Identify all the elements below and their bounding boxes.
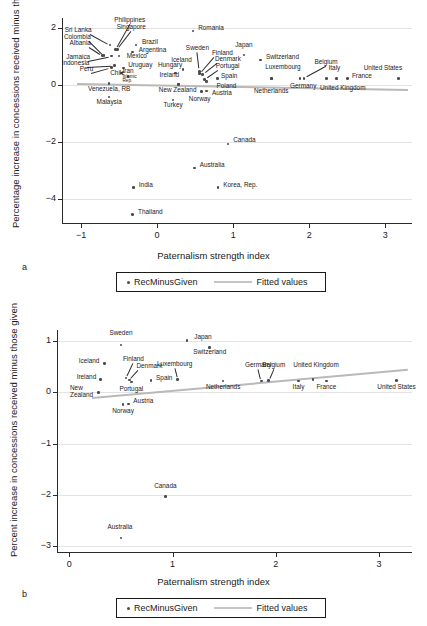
point-label: Portugal <box>119 386 143 393</box>
legend-key-series: RecMinusGiven <box>127 603 198 613</box>
x-tick-b <box>276 553 277 557</box>
point-label: Italy <box>293 384 305 391</box>
x-tick-b <box>69 553 70 557</box>
point-label: United States <box>377 384 415 391</box>
y-tick-label-b: −1 <box>33 438 51 448</box>
x-tick-a <box>81 224 82 228</box>
x-tick-label-b: 0 <box>59 559 79 569</box>
figure-root: 20−2−4−10123Sri LankaPhilippinesSingapor… <box>0 0 427 626</box>
data-point <box>120 344 123 347</box>
x-axis-a <box>62 223 412 224</box>
data-point <box>217 186 220 189</box>
gridline-y-b <box>57 392 412 393</box>
data-point <box>205 90 208 93</box>
point-label: Korea, Rep. <box>223 182 257 189</box>
point-label: Sweden <box>109 330 132 337</box>
data-point <box>297 380 300 383</box>
point-label: Brazil <box>142 39 158 46</box>
data-point <box>270 77 273 80</box>
point-label: United States <box>364 65 402 72</box>
gridline-y-a <box>62 199 412 200</box>
y-tick-a <box>58 142 62 143</box>
point-label: India <box>139 182 153 189</box>
label-leader-line <box>258 369 261 379</box>
panel-a: 20−2−4−10123Sri LankaPhilippinesSingapor… <box>0 0 427 300</box>
data-point <box>325 380 328 383</box>
point-label: Netherlands <box>254 88 288 95</box>
y-tick-a <box>58 199 62 200</box>
data-point <box>116 48 119 51</box>
x-axis-label-a: Paternalism strength index <box>0 250 427 261</box>
y-tick-label-b: 1 <box>33 335 51 345</box>
data-point <box>222 380 225 383</box>
label-leader-line <box>89 34 107 44</box>
label-leader-line <box>174 368 177 377</box>
y-tick-label-b: −2 <box>33 489 51 499</box>
legend-key-fit: Fitted values <box>214 603 308 613</box>
point-label: Thailand <box>138 209 163 216</box>
legend-dot-icon <box>127 607 130 610</box>
point-label: Belgium <box>262 362 285 369</box>
label-leader-line <box>197 53 200 69</box>
y-tick-label-b: 0 <box>33 386 51 396</box>
data-point <box>312 378 315 381</box>
data-point <box>200 90 203 93</box>
y-tick-label-a: −4 <box>38 193 56 203</box>
legend-key-series: RecMinusGiven <box>127 277 198 287</box>
point-label: Turkey <box>163 102 182 109</box>
data-point <box>150 379 153 382</box>
data-point <box>335 77 338 80</box>
point-label: Switzerland <box>266 54 299 61</box>
point-label: Austria <box>212 90 232 97</box>
data-point <box>164 495 167 498</box>
data-point <box>395 379 398 382</box>
point-label: France <box>352 73 372 80</box>
point-label: Albania <box>70 40 91 47</box>
point-label: Singapore <box>117 24 146 31</box>
point-label: Japan <box>194 334 211 341</box>
data-point <box>97 391 100 394</box>
x-tick-label-a: 0 <box>147 230 167 240</box>
data-point <box>132 186 135 189</box>
point-label: Malaysia <box>97 99 122 106</box>
legend-line-icon <box>214 607 252 609</box>
data-point <box>205 80 208 83</box>
legend-dot-icon <box>127 281 130 284</box>
point-label: Luxembourg <box>157 361 193 368</box>
x-tick-label-b: 1 <box>163 559 183 569</box>
legend-a: RecMinusGiven Fitted values <box>116 272 326 292</box>
y-tick-b <box>53 546 57 547</box>
legend-series-label: RecMinusGiven <box>134 603 198 613</box>
y-axis-label-b: Percent increase in concessions received… <box>8 322 19 557</box>
point-label: Netherlands <box>206 384 240 391</box>
data-point <box>201 73 204 76</box>
y-tick-label-a: −2 <box>38 136 56 146</box>
point-label: NewZealand <box>70 385 93 398</box>
x-tick-a <box>385 224 386 228</box>
y-tick-b <box>53 341 57 342</box>
data-point <box>243 54 246 57</box>
point-label: Mexico <box>127 53 147 60</box>
y-tick-label-a: 2 <box>38 22 56 32</box>
data-point <box>131 213 134 216</box>
point-label: Sweden <box>186 45 209 52</box>
label-leader-line <box>131 370 139 379</box>
label-leader-line <box>88 56 109 61</box>
point-label: United Kingdom <box>320 85 365 92</box>
panel-letter-a: a <box>22 262 27 272</box>
point-label: Australia <box>108 524 133 531</box>
data-point <box>267 379 270 382</box>
data-point <box>227 143 230 146</box>
point-label: New Zealand <box>159 87 197 94</box>
label-leader-line <box>306 66 326 77</box>
point-label: Japan <box>235 42 252 49</box>
data-point <box>110 55 113 58</box>
legend-key-fit: Fitted values <box>214 277 308 287</box>
data-point <box>303 77 306 80</box>
data-point <box>216 77 219 80</box>
label-leader-line <box>269 369 274 378</box>
x-tick-label-b: 3 <box>369 559 389 569</box>
data-point <box>325 77 328 80</box>
point-label: Hungary <box>158 62 182 69</box>
x-tick-a <box>157 224 158 228</box>
